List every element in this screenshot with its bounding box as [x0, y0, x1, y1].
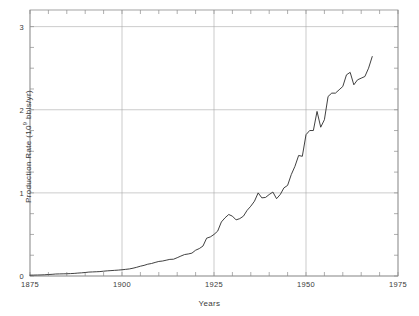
- y-tick-label: 0: [6, 272, 24, 281]
- x-axis-label: Years: [0, 299, 419, 308]
- x-tick-label: 1975: [389, 280, 407, 289]
- x-tick-label: 1925: [205, 280, 223, 289]
- y-tick-label: 3: [6, 22, 24, 31]
- gridlines: [30, 10, 398, 276]
- x-tick-label: 1900: [113, 280, 131, 289]
- chart-plot-area: [0, 0, 419, 316]
- y-axis-label-prefix: Production Rate (10: [24, 125, 33, 203]
- y-axis-label-suffix: bbls/yr): [24, 90, 33, 122]
- x-tick-label: 1875: [21, 280, 39, 289]
- y-tick-label: 2: [6, 105, 24, 114]
- x-tick-label: 1950: [297, 280, 315, 289]
- data-series-line: [30, 57, 372, 276]
- y-tick-label: 1: [6, 188, 24, 197]
- chart-figure: Production Rate (109 bbls/yr) Years 1875…: [0, 0, 419, 316]
- y-axis-label-exponent: 9: [22, 122, 28, 126]
- y-axis-label: Production Rate (109 bbls/yr): [24, 67, 33, 227]
